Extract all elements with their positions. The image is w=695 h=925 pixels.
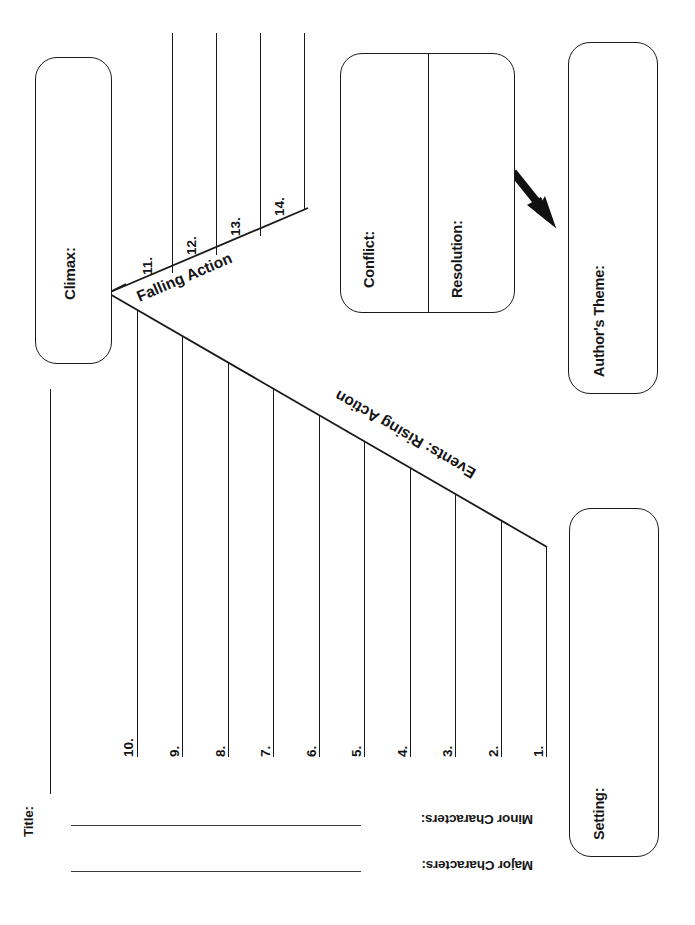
title-divider xyxy=(50,389,51,794)
conflict-resolution-divider xyxy=(428,54,429,312)
rising-number-9: 9. xyxy=(167,746,182,757)
falling-line-11 xyxy=(172,33,173,273)
title-writing-line-2[interactable] xyxy=(71,871,361,872)
falling-action-diagonal xyxy=(108,208,308,293)
falling-line-12 xyxy=(216,33,217,255)
falling-number-13: 13. xyxy=(228,217,243,236)
rising-line-4 xyxy=(410,469,411,757)
rising-number-4: 4. xyxy=(395,746,410,757)
falling-line-13 xyxy=(260,33,261,236)
climax-label: Climax: xyxy=(62,247,77,300)
falling-number-14: 14. xyxy=(272,197,287,216)
rising-line-1 xyxy=(546,547,547,757)
setting-box[interactable] xyxy=(569,508,659,857)
rising-number-10: 10. xyxy=(121,738,136,757)
rising-line-7 xyxy=(273,389,274,757)
rising-line-6 xyxy=(319,416,320,757)
conflict-label: Conflict: xyxy=(362,231,377,288)
worksheet-page: Climax: Conflict: Resolution: Author's T… xyxy=(0,0,695,925)
rising-number-5: 5. xyxy=(349,746,364,757)
climax-box[interactable] xyxy=(35,57,112,364)
rising-line-8 xyxy=(228,363,229,757)
rising-line-10 xyxy=(137,310,138,757)
authors-theme-box[interactable] xyxy=(568,42,658,394)
rising-number-1: 1. xyxy=(531,746,546,757)
rising-number-7: 7. xyxy=(258,746,273,757)
falling-number-11: 11. xyxy=(140,257,155,275)
title-label: Title: xyxy=(22,806,36,837)
rising-line-5 xyxy=(364,442,365,757)
rising-line-2 xyxy=(501,521,502,757)
rising-number-8: 8. xyxy=(213,746,228,757)
rising-number-6: 6. xyxy=(304,746,319,757)
title-writing-line-1[interactable] xyxy=(71,825,361,826)
rising-action-label: Events: Rising Action xyxy=(332,387,479,482)
rising-line-3 xyxy=(455,495,456,757)
minor-characters-label: Minor Characters: xyxy=(421,813,533,827)
rising-action-diagonal xyxy=(108,293,547,547)
major-characters-label: Major Characters: xyxy=(422,859,533,873)
authors-theme-label: Author's Theme: xyxy=(592,265,607,377)
resolution-to-theme-arrow xyxy=(513,172,556,228)
rising-number-2: 2. xyxy=(486,746,501,757)
falling-line-14 xyxy=(304,33,305,210)
falling-number-12: 12. xyxy=(184,236,199,255)
rising-line-9 xyxy=(182,336,183,757)
setting-label: Setting: xyxy=(592,788,607,840)
rising-number-3: 3. xyxy=(440,746,455,757)
resolution-label: Resolution: xyxy=(450,220,465,298)
